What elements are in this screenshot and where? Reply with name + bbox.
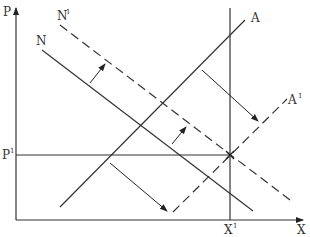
shift-arrow-n-lower: [172, 127, 186, 144]
y-axis-label: P: [3, 5, 11, 19]
p1-label: P: [2, 148, 10, 162]
curve-a1-label-sup: 1: [298, 92, 302, 100]
curve-n: [42, 50, 253, 211]
p1-label-sup: 1: [10, 147, 14, 155]
x1-label: X: [224, 223, 233, 237]
shift-arrow-n-upper: [90, 64, 105, 83]
curve-a: [60, 20, 245, 207]
supply-demand-diagram: P X P 1 X 1 N N 1 A A 1: [0, 0, 310, 237]
x1-label-sup: 1: [233, 222, 237, 230]
curve-n1: [60, 25, 290, 200]
curve-a-label: A: [250, 11, 260, 25]
curve-n1-label-sup: 1: [66, 8, 70, 16]
shift-arrow-a-lower: [110, 163, 167, 211]
x-axis-label: X: [297, 223, 306, 237]
curve-n-label: N: [36, 34, 47, 48]
curve-a1-label: A: [287, 93, 297, 107]
